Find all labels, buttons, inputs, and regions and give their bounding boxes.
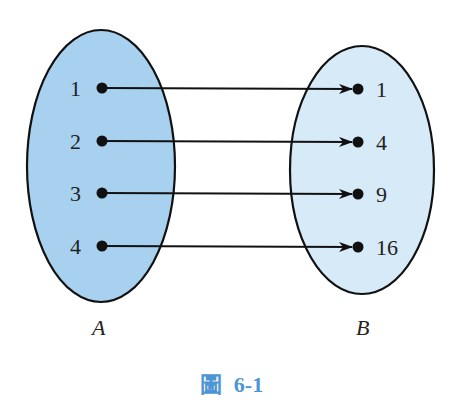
set-a-element: 1 xyxy=(70,76,81,101)
dot-a-1 xyxy=(97,83,108,94)
set-b-ellipse xyxy=(290,46,434,294)
set-a-element: 2 xyxy=(70,129,81,154)
dot-a-3 xyxy=(97,188,108,199)
arrow-2-to-4 xyxy=(102,141,352,142)
arrow-4-to-16 xyxy=(102,246,352,247)
dot-b-16 xyxy=(353,242,364,253)
arrow-3-to-9 xyxy=(102,193,352,194)
set-b-element: 4 xyxy=(376,130,387,155)
set-b-element: 1 xyxy=(376,77,387,102)
set-a-name: A xyxy=(90,315,106,340)
set-b-name: B xyxy=(356,315,369,340)
dot-b-1 xyxy=(353,84,364,95)
arrow-1-to-1 xyxy=(102,88,352,89)
dot-b-4 xyxy=(353,137,364,148)
dot-b-9 xyxy=(353,189,364,200)
set-a-element: 3 xyxy=(70,181,81,206)
caption-prefix: 圖 xyxy=(200,372,222,397)
set-a-element: 4 xyxy=(70,234,81,259)
mapping-diagram: 1 2 3 4 1 4 9 16 A B xyxy=(0,0,463,409)
set-b-element: 16 xyxy=(376,235,398,260)
figure-caption: 圖6-1 xyxy=(0,366,463,398)
set-a-ellipse xyxy=(27,30,175,302)
set-b-element: 9 xyxy=(376,182,387,207)
caption-number: 6-1 xyxy=(234,372,263,397)
dot-a-2 xyxy=(97,136,108,147)
dot-a-4 xyxy=(97,241,108,252)
